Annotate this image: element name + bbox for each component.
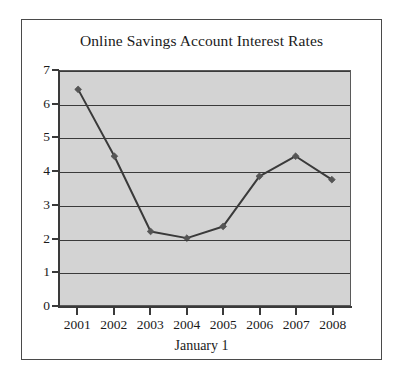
x-axis-tick-2008	[332, 308, 334, 315]
x-axis-tick-2007	[295, 308, 297, 315]
y-axis-tick-7	[52, 69, 59, 71]
plot-area	[59, 70, 351, 306]
figure-frame: Online Savings Account Interest Rates 01…	[21, 19, 382, 360]
gridline-y-1	[60, 273, 350, 274]
y-axis-label-6: 6	[24, 96, 50, 112]
x-axis-tick-2006	[259, 308, 261, 315]
series-line	[78, 89, 332, 238]
gridline-y-6	[60, 105, 350, 106]
x-axis-tick-2004	[186, 308, 188, 315]
y-axis-tick-3	[52, 204, 59, 206]
x-axis-tick-2005	[222, 308, 224, 315]
gridline-y-4	[60, 172, 350, 173]
gridline-y-7	[60, 71, 350, 72]
y-axis-label-7: 7	[24, 62, 50, 78]
x-axis-tick-2001	[76, 308, 78, 315]
x-axis-label-2008: 2008	[311, 317, 355, 333]
x-axis-tick-2002	[113, 308, 115, 315]
x-axis-tick-2003	[149, 308, 151, 315]
y-axis-tick-5	[52, 136, 59, 138]
y-axis-label-1: 1	[24, 264, 50, 280]
series-line-chart	[60, 71, 350, 305]
y-axis-tick-2	[52, 238, 59, 240]
chart-title: Online Savings Account Interest Rates	[22, 32, 381, 50]
gridline-y-3	[60, 206, 350, 207]
y-axis-tick-0	[52, 305, 59, 307]
x-axis-title: January 1	[22, 338, 381, 354]
y-axis-label-0: 0	[24, 298, 50, 314]
x-axis-line	[58, 306, 352, 308]
y-axis-tick-4	[52, 170, 59, 172]
y-axis-label-3: 3	[24, 197, 50, 213]
y-axis-label-2: 2	[24, 231, 50, 247]
gridline-y-2	[60, 240, 350, 241]
y-axis-tick-labels: 01234567	[22, 20, 50, 361]
y-axis-tick-1	[52, 271, 59, 273]
data-point-2003	[147, 228, 154, 235]
y-axis-label-5: 5	[24, 129, 50, 145]
y-axis-label-4: 4	[24, 163, 50, 179]
gridline-y-5	[60, 138, 350, 139]
y-axis-tick-6	[52, 103, 59, 105]
